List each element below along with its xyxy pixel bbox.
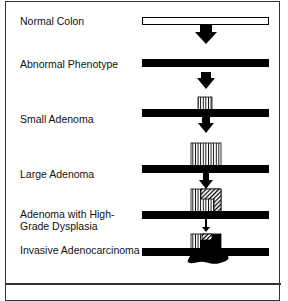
bar-normal-colon	[143, 18, 269, 25]
dysplasia-invasive	[202, 234, 212, 240]
polyp-large-adenoma	[191, 143, 221, 166]
arrow-down-icon-1	[195, 25, 217, 44]
bar-abnormal-phenotype	[142, 59, 269, 67]
arrow-down-icon-5	[202, 219, 210, 232]
polyp-small-adenoma	[198, 97, 212, 110]
arrow-down-icon-2	[197, 72, 215, 89]
arrow-down-icon-4	[199, 173, 213, 189]
bar-small-adenoma	[142, 109, 269, 117]
bar-high-grade-dysplasia	[142, 211, 269, 219]
arrow-down-icon-3	[198, 117, 214, 133]
bar-invasive-adenocarcinoma	[142, 248, 269, 256]
invasion-mass	[188, 256, 229, 264]
bar-large-adenoma	[142, 165, 269, 173]
